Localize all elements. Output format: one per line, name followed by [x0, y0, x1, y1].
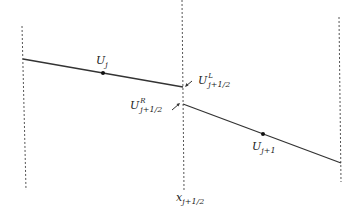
right-cell-boundary	[339, 17, 341, 182]
label-u-right-interface: URj+1/2	[130, 97, 162, 114]
label-sub: j+1/2	[182, 197, 204, 206]
label-sub: j	[105, 60, 107, 69]
label-sub: j+1/2	[140, 105, 162, 114]
label-sub: j+1/2	[208, 80, 230, 89]
label-base: U	[130, 99, 139, 112]
label-u-jp1: Uj+1	[252, 141, 276, 152]
u-jp1-point	[261, 132, 265, 136]
diagram-canvas	[0, 0, 359, 211]
label-base: U	[252, 140, 261, 153]
label-sub: j+1	[261, 146, 275, 155]
label-base: U	[96, 54, 105, 67]
label-base: U	[198, 74, 207, 87]
left-cell-boundary	[22, 26, 26, 190]
label-x-interface: xj+1/2	[176, 192, 204, 203]
label-sup: R	[140, 97, 162, 105]
arrow-left-head-icon	[185, 83, 189, 87]
interface-boundary	[182, 0, 184, 190]
u-j-point	[101, 71, 105, 75]
label-u-left-interface: ULj+1/2	[198, 72, 230, 89]
label-sup: L	[208, 72, 230, 80]
label-u-j: Uj	[96, 55, 108, 66]
